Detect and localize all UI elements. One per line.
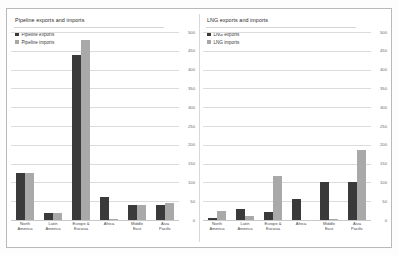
category-label: AsiaPacific xyxy=(152,222,178,232)
category-label: LatinAmerica xyxy=(232,222,258,232)
y-axis-tick-label: 100 xyxy=(373,180,387,185)
bar-group[interactable] xyxy=(68,32,94,220)
y-axis-tick-label: 500 xyxy=(373,30,387,35)
bar[interactable] xyxy=(292,199,301,220)
bar-group[interactable] xyxy=(152,32,178,220)
category-label: LatinAmerica xyxy=(40,222,66,232)
y-axis-tick-label: 200 xyxy=(181,142,195,147)
bar[interactable] xyxy=(72,55,81,220)
bar[interactable] xyxy=(236,209,245,220)
y-axis-tick-label: 350 xyxy=(373,86,387,91)
category-label: NorthAmerica xyxy=(12,222,38,232)
bar[interactable] xyxy=(357,150,366,220)
bar[interactable] xyxy=(100,197,109,220)
gridline xyxy=(203,220,371,221)
title-divider-pipeline xyxy=(14,27,164,28)
bar-group[interactable] xyxy=(232,32,258,220)
bar[interactable] xyxy=(81,40,90,220)
bar[interactable] xyxy=(44,213,53,220)
y-axis-tick-label: 150 xyxy=(181,161,195,166)
chart-panel-lng: LNG exports and imports LNG exports LNG … xyxy=(199,9,391,247)
bar-group[interactable] xyxy=(124,32,150,220)
y-axis-tick-label: 50 xyxy=(181,199,195,204)
y-axis-tick-label: 400 xyxy=(373,67,387,72)
y-axis-tick-label: 350 xyxy=(181,86,195,91)
y-axis-tick-label: 450 xyxy=(373,48,387,53)
y-axis-tick-label: 50 xyxy=(373,199,387,204)
bar[interactable] xyxy=(53,213,62,220)
y-axis-tick-label: 400 xyxy=(181,67,195,72)
bar[interactable] xyxy=(273,176,282,220)
category-label: AsiaPacific xyxy=(344,222,370,232)
title-divider-lng xyxy=(206,27,356,28)
bar-groups-lng xyxy=(203,32,371,220)
y-axis-tick-label: 0 xyxy=(373,218,387,223)
bar[interactable] xyxy=(156,205,165,220)
category-label: Europe &Eurasia xyxy=(68,222,94,232)
category-label: Europe &Eurasia xyxy=(260,222,286,232)
category-label: Africa xyxy=(288,222,314,232)
plot-area-lng: 050100150200250300350400450500 xyxy=(203,32,371,220)
bar-group[interactable] xyxy=(96,32,122,220)
category-labels-pipeline: NorthAmericaLatinAmericaEurope &EurasiaA… xyxy=(11,222,179,232)
category-labels-lng: NorthAmericaLatinAmericaEurope &EurasiaA… xyxy=(203,222,371,232)
bar[interactable] xyxy=(348,182,357,220)
category-label: MiddleEast xyxy=(124,222,150,232)
y-axis-tick-label: 250 xyxy=(181,124,195,129)
bar-group[interactable] xyxy=(288,32,314,220)
y-axis-tick-label: 250 xyxy=(373,124,387,129)
y-axis-tick-label: 150 xyxy=(373,161,387,166)
gridline xyxy=(11,220,179,221)
bar[interactable] xyxy=(245,216,254,221)
bar[interactable] xyxy=(109,219,118,220)
y-axis-tick-label: 100 xyxy=(181,180,195,185)
bar-groups-pipeline xyxy=(11,32,179,220)
bar[interactable] xyxy=(25,173,34,220)
bar-group[interactable] xyxy=(260,32,286,220)
category-label: MiddleEast xyxy=(316,222,342,232)
bar-group[interactable] xyxy=(344,32,370,220)
bar-group[interactable] xyxy=(204,32,230,220)
panel-divider xyxy=(199,14,200,242)
bar-group[interactable] xyxy=(40,32,66,220)
figure-page: Pipeline exports and imports Pipeline ex… xyxy=(0,0,399,255)
y-axis-tick-label: 300 xyxy=(181,105,195,110)
category-label: NorthAmerica xyxy=(204,222,230,232)
y-axis-tick-label: 500 xyxy=(181,30,195,35)
bar[interactable] xyxy=(208,218,217,220)
bar[interactable] xyxy=(165,203,174,220)
chart-panel-pipeline: Pipeline exports and imports Pipeline ex… xyxy=(7,9,199,247)
bar[interactable] xyxy=(217,211,226,220)
chart-title-lng: LNG exports and imports xyxy=(207,17,268,23)
chart-title-pipeline: Pipeline exports and imports xyxy=(15,17,84,23)
category-label: Africa xyxy=(96,222,122,232)
bar[interactable] xyxy=(16,173,25,220)
bar[interactable] xyxy=(128,205,137,220)
bar[interactable] xyxy=(329,219,338,220)
bar-group[interactable] xyxy=(316,32,342,220)
y-axis-tick-label: 450 xyxy=(181,48,195,53)
bar-group[interactable] xyxy=(12,32,38,220)
y-axis-tick-label: 0 xyxy=(181,218,195,223)
bar[interactable] xyxy=(137,205,146,220)
plot-area-pipeline: 050100150200250300350400450500 xyxy=(11,32,179,220)
y-axis-tick-label: 200 xyxy=(373,142,387,147)
y-axis-tick-label: 300 xyxy=(373,105,387,110)
bar[interactable] xyxy=(264,212,273,220)
bar[interactable] xyxy=(320,182,329,220)
